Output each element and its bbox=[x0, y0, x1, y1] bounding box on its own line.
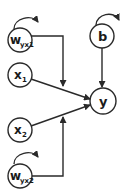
self-loop-wyx2 bbox=[14, 153, 38, 164]
diagram-canvas: w yx1 b x 1 y x 2 w yx2 bbox=[0, 0, 127, 194]
node-wyx1: w yx1 bbox=[8, 28, 34, 52]
edge-wyx2-modulates bbox=[32, 117, 63, 176]
node-x2: x 2 bbox=[8, 118, 32, 142]
node-y-label: y bbox=[99, 94, 108, 109]
node-x1: x 1 bbox=[8, 63, 32, 87]
node-b-label: b bbox=[98, 29, 107, 44]
node-y: y bbox=[90, 88, 116, 114]
node-b: b bbox=[90, 24, 114, 48]
edge-wyx1-modulates bbox=[31, 36, 63, 86]
node-x2-label: x bbox=[14, 123, 22, 137]
self-loop-wyx1 bbox=[14, 18, 38, 29]
node-x1-subscript: 1 bbox=[22, 76, 27, 84]
node-wyx1-subscript: yx1 bbox=[20, 41, 34, 49]
node-x2-subscript: 2 bbox=[22, 131, 27, 139]
self-loop-b bbox=[96, 14, 119, 25]
edge-x1-to-y bbox=[31, 79, 90, 99]
node-wyx2-subscript: yx2 bbox=[20, 177, 34, 185]
node-wyx2: w yx2 bbox=[8, 164, 34, 188]
edge-x2-to-y bbox=[31, 105, 90, 126]
node-x1-label: x bbox=[14, 68, 22, 82]
